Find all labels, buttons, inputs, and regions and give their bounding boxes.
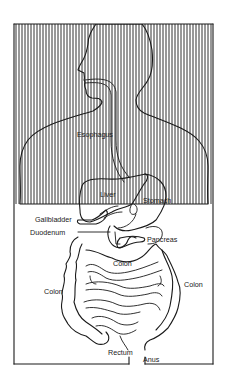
label-liver: Liver [100, 190, 116, 199]
label-anus: Anus [143, 355, 160, 364]
label-pancreas: Pancreas [147, 235, 178, 244]
label-esophagus: Esophagus [77, 130, 113, 139]
label-rectum: Rectum [108, 348, 133, 357]
colon [61, 237, 180, 350]
digestive-system-diagram: Esophagus Liver Stomach Gallbladder Duod… [0, 0, 230, 385]
gallbladder [77, 206, 122, 224]
label-duodenum: Duodenum [30, 228, 65, 237]
small-intestine [84, 262, 164, 350]
label-colon-transverse: Colon [113, 259, 132, 268]
hatched-background [14, 24, 213, 204]
label-stomach: Stomach [143, 196, 171, 205]
label-colon-right: Colon [184, 280, 203, 289]
label-colon-left: Colon [44, 287, 63, 296]
label-gallbladder: Gallbladder [35, 215, 72, 224]
